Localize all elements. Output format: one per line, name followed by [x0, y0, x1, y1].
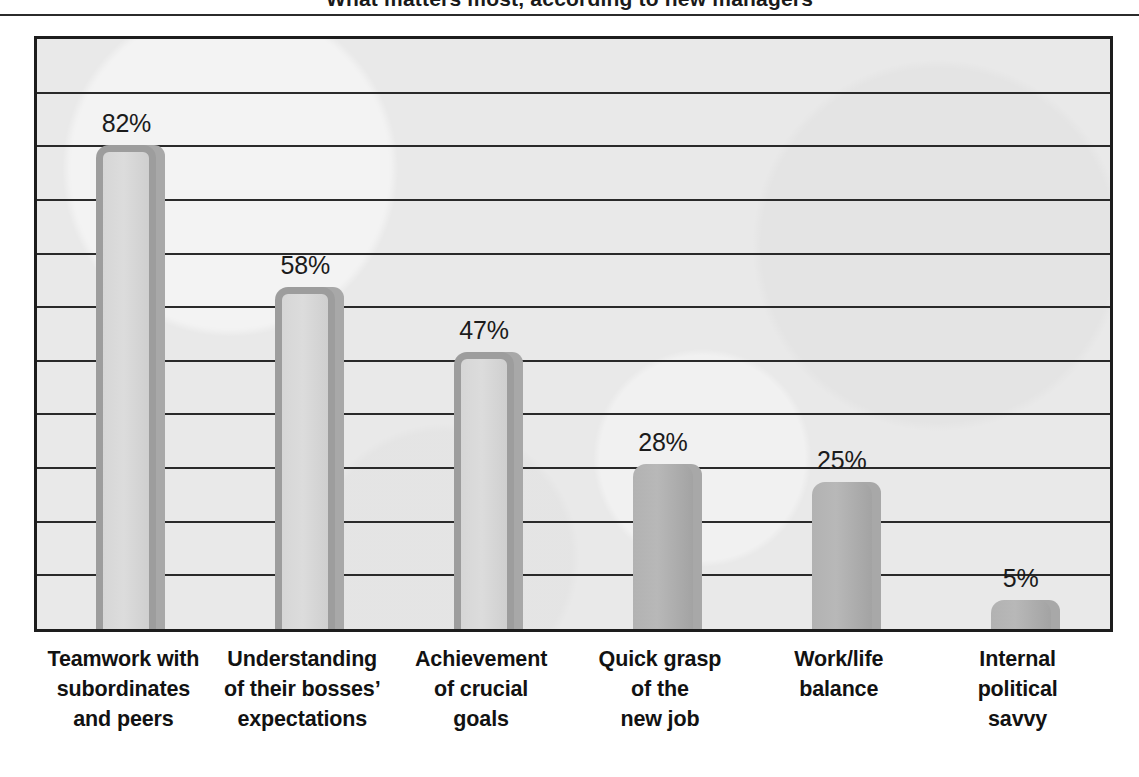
x-axis-labels: Teamwork withsubordinatesand peersUnders…: [34, 644, 1113, 769]
chart-title-strip: What matters most, according to new mana…: [0, 0, 1139, 14]
label-line: expectations: [201, 704, 404, 734]
label-line: Quick grasp: [559, 644, 762, 674]
bar-value-label: 58%: [281, 251, 330, 280]
label-line: savvy: [916, 704, 1119, 734]
bar-body: [454, 352, 514, 629]
bar-body: [633, 464, 693, 629]
chart-plot-area: 82%58%47%28%25%5%: [34, 36, 1113, 632]
bar-body: [812, 482, 872, 630]
label-line: Internal: [916, 644, 1119, 674]
bar-value-label: 82%: [102, 109, 151, 138]
bar-series: 82%58%47%28%25%5%: [37, 39, 1110, 629]
bar-body: [275, 287, 335, 629]
bar-value-label: 47%: [459, 316, 508, 345]
bar-boss-expectations: 58%: [275, 287, 335, 629]
label-line: Understanding: [201, 644, 404, 674]
bar-value-label: 28%: [638, 428, 687, 457]
bar-crucial-goals: 47%: [454, 352, 514, 629]
label-line: new job: [559, 704, 762, 734]
x-axis-label-boss-expectations: Understandingof their bosses’expectation…: [201, 644, 404, 734]
label-line: and peers: [22, 704, 225, 734]
bar-political-savvy: 5%: [991, 600, 1051, 630]
label-line: Teamwork with: [22, 644, 225, 674]
bar-body: [991, 600, 1051, 630]
bar-body: [96, 145, 156, 629]
label-line: of the: [559, 674, 762, 704]
label-line: Achievement: [380, 644, 583, 674]
bar-teamwork: 82%: [96, 145, 156, 629]
label-line: political: [916, 674, 1119, 704]
bar-value-label: 5%: [1003, 564, 1039, 593]
x-axis-label-political-savvy: Internalpoliticalsavvy: [916, 644, 1119, 734]
bar-value-label: 25%: [817, 446, 866, 475]
label-line: balance: [737, 674, 940, 704]
bar-quick-grasp: 28%: [633, 464, 693, 629]
label-line: subordinates: [22, 674, 225, 704]
label-line: of crucial: [380, 674, 583, 704]
page-title: What matters most, according to new mana…: [0, 0, 1139, 11]
x-axis-label-teamwork: Teamwork withsubordinatesand peers: [22, 644, 225, 734]
label-line: Work/life: [737, 644, 940, 674]
title-divider: [0, 14, 1139, 16]
label-line: goals: [380, 704, 583, 734]
x-axis-label-quick-grasp: Quick graspof thenew job: [559, 644, 762, 734]
x-axis-label-crucial-goals: Achievementof crucialgoals: [380, 644, 583, 734]
bar-work-life-balance: 25%: [812, 482, 872, 630]
x-axis-label-work-life-balance: Work/lifebalance: [737, 644, 940, 704]
label-line: of their bosses’: [201, 674, 404, 704]
